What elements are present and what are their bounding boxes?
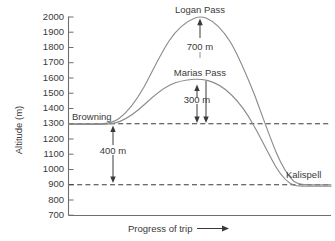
y-tick-label: 1300 [43, 117, 64, 128]
marias-pass-label: Marias Pass [174, 67, 227, 78]
y-tick-label: 1800 [43, 41, 64, 52]
y-tick-label: 1000 [43, 163, 64, 174]
x-axis-title: Progress of trip [128, 223, 192, 234]
y-tick-label: 1600 [43, 72, 64, 83]
altitude-profile-chart: 2000 1900 1800 1700 1600 1500 1400 1300 … [0, 0, 335, 241]
y-tick-label: 700 [48, 209, 64, 220]
y-tick-label: 800 [48, 194, 64, 205]
delta-400-label: 400 m [100, 145, 126, 156]
y-tick-label: 1700 [43, 56, 64, 67]
logan-pass-label: Logan Pass [175, 4, 225, 15]
y-tick-label: 1100 [44, 148, 64, 159]
chart-svg: 2000 1900 1800 1700 1600 1500 1400 1300 … [0, 0, 335, 241]
y-tick-label: 2000 [43, 11, 64, 22]
y-tick-label: 1400 [43, 102, 64, 113]
y-tick-label: 1200 [43, 133, 64, 144]
kalispell-label: Kalispell [286, 169, 321, 180]
y-axis-title: Altitude (m) [13, 106, 24, 155]
delta-700-label: 700 m [187, 41, 213, 52]
y-tick-label: 1900 [43, 26, 64, 37]
browning-label: Browning [72, 111, 112, 122]
y-tick-label: 900 [48, 178, 64, 189]
y-tick-label: 1500 [43, 87, 64, 98]
